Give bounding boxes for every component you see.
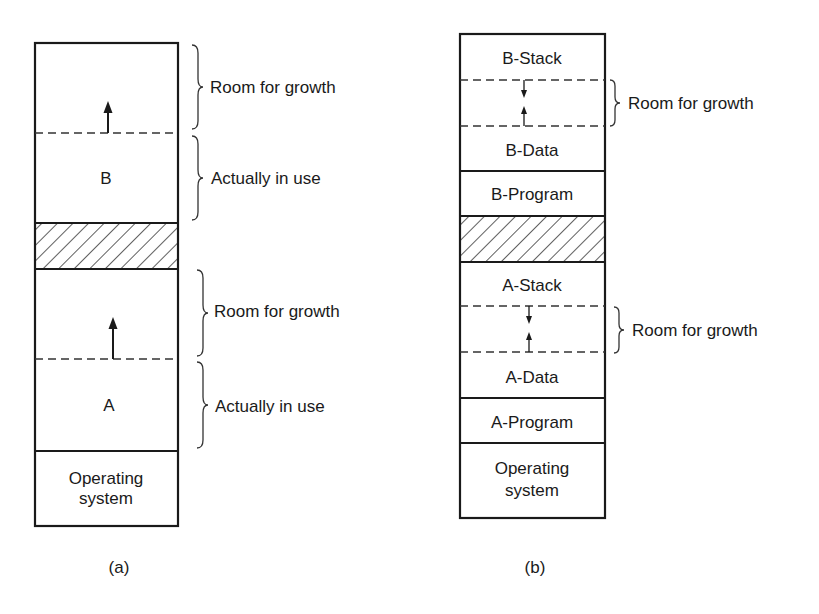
brace-icon	[614, 307, 624, 353]
annotation-room-for-growth: Room for growth	[210, 78, 336, 97]
segment-label-os-line2: system	[79, 489, 133, 508]
annotation-room-for-growth: Room for growth	[214, 302, 340, 321]
caption-b: (b)	[525, 558, 546, 577]
segment-label-a-program: A-Program	[491, 413, 573, 432]
segment-label-os-line2: system	[505, 481, 559, 500]
data-growth-arrow-up-icon	[521, 106, 527, 126]
brace-icon	[610, 80, 620, 126]
annotation-actually-in-use: Actually in use	[215, 397, 325, 416]
diagram-a: B A Operating system Room for growth Act…	[35, 43, 340, 577]
annotation-room-for-growth: Room for growth	[628, 94, 754, 113]
growth-arrow-up-icon	[104, 101, 113, 133]
segment-label-os-line1: Operating	[495, 459, 570, 478]
segment-label-b: B	[100, 169, 111, 188]
stack-growth-arrow-down-icon	[526, 306, 532, 324]
data-growth-arrow-up-icon	[526, 332, 532, 352]
caption-a: (a)	[109, 558, 130, 577]
segment-label-a-data: A-Data	[506, 368, 559, 387]
segment-label-b-program: B-Program	[491, 185, 573, 204]
stack-growth-arrow-down-icon	[521, 80, 527, 98]
memory-layout-diagram: B A Operating system Room for growth Act…	[0, 0, 819, 614]
diagram-b: B-Stack B-Data B-Program A-Stack A-Data …	[460, 34, 758, 577]
segment-label-b-stack: B-Stack	[502, 49, 562, 68]
brace-icon	[192, 136, 203, 220]
brace-icon	[197, 270, 208, 356]
segment-label-a-stack: A-Stack	[502, 276, 562, 295]
brace-icon	[192, 45, 203, 129]
segment-label-a: A	[103, 396, 115, 415]
brace-icon	[197, 362, 208, 448]
annotation-actually-in-use: Actually in use	[211, 169, 321, 188]
segment-label-b-data: B-Data	[506, 141, 559, 160]
segment-label-os-line1: Operating	[69, 469, 144, 488]
annotation-room-for-growth: Room for growth	[632, 321, 758, 340]
memory-frame-a	[35, 43, 178, 526]
hatched-unused-region-b	[460, 216, 605, 262]
growth-arrow-up-icon	[109, 317, 118, 359]
hatched-unused-region-a	[35, 223, 178, 269]
